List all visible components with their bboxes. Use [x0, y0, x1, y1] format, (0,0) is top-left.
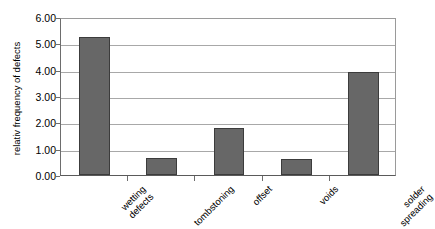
x-category-label: offset — [251, 184, 275, 208]
bar — [348, 72, 379, 175]
plot-area — [60, 18, 396, 176]
x-category-label: tombstoning — [192, 184, 236, 228]
x-tickmark — [194, 176, 195, 181]
y-tick-label: 5.00 — [24, 39, 56, 50]
y-tickmark — [55, 44, 60, 45]
y-tickmark — [55, 150, 60, 151]
y-tick-label: 1.00 — [24, 145, 56, 156]
y-tickmark — [55, 71, 60, 72]
y-axis-title: relativ frequency of defects — [11, 12, 22, 186]
y-tickmark — [55, 97, 60, 98]
y-tick-label: 3.00 — [24, 92, 56, 103]
x-category-label: wetting defects — [119, 184, 156, 221]
bar — [79, 37, 110, 175]
bar — [146, 158, 177, 175]
x-tickmark — [329, 176, 330, 181]
bar — [214, 128, 245, 175]
y-tick-label: 4.00 — [24, 66, 56, 77]
bars-group — [61, 19, 395, 175]
y-tickmark — [55, 18, 60, 19]
bar — [281, 159, 312, 175]
x-category-label: voids — [318, 184, 341, 207]
x-tickmark — [262, 176, 263, 181]
y-tickmark — [55, 176, 60, 177]
y-tick-label: 6.00 — [24, 13, 56, 24]
y-tick-label: 0.00 — [24, 171, 56, 182]
y-tickmark — [55, 123, 60, 124]
y-axis-tick-labels: 6.005.004.003.002.001.000.00 — [24, 18, 56, 176]
x-tickmark — [127, 176, 128, 181]
y-tick-label: 2.00 — [24, 118, 56, 129]
x-category-label: solder spreading — [391, 184, 435, 228]
